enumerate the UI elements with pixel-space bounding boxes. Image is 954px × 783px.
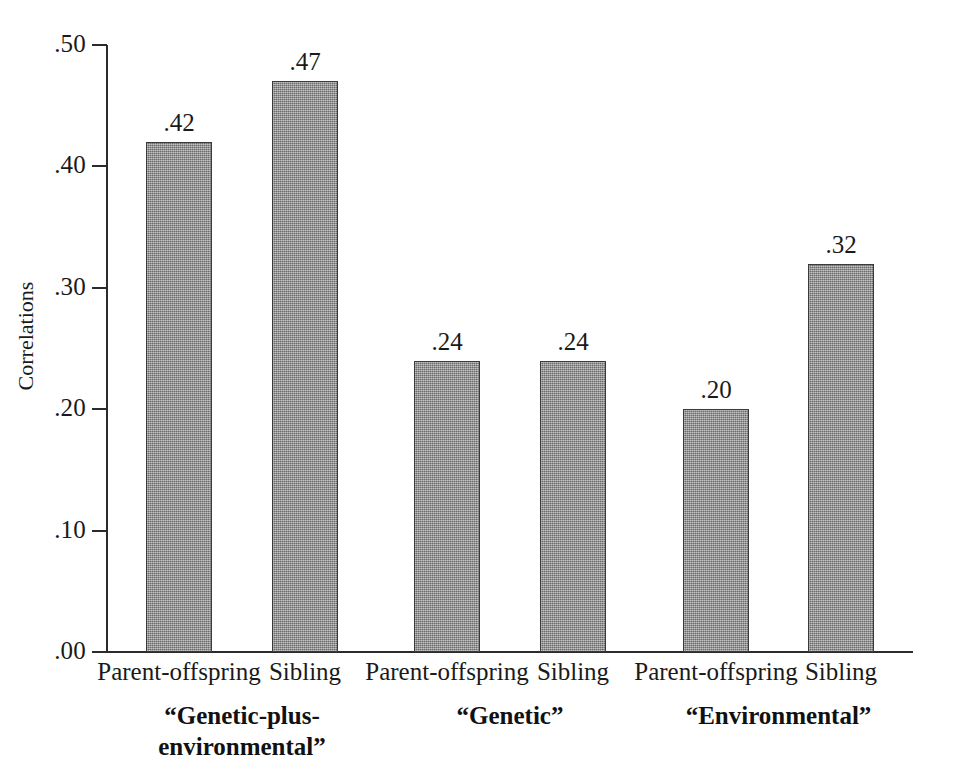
y-axis-tick-mark	[92, 651, 107, 653]
y-axis-tick-mark	[92, 44, 107, 46]
bar-chart-figure: Correlations .50.40.30.20.10.00 .42.47.2…	[0, 0, 954, 783]
bar	[272, 81, 338, 652]
y-axis-tick-label: .30	[40, 274, 86, 299]
bar-value-label: .42	[126, 110, 232, 135]
y-axis-tick-label: .10	[40, 517, 86, 542]
bar-value-label: .24	[394, 329, 500, 354]
bar	[683, 409, 749, 652]
y-axis-tick-label: .20	[40, 395, 86, 420]
bar-value-label: .24	[520, 329, 626, 354]
bar	[146, 142, 212, 652]
y-axis-tick-mark	[92, 530, 107, 532]
group-label-line: “Environmental”	[619, 700, 939, 731]
bar-value-label: .20	[663, 377, 769, 402]
bar	[808, 264, 874, 652]
y-axis-tick-mark	[92, 165, 107, 167]
group-label-line: environmental”	[82, 731, 402, 762]
category-label: Sibling	[721, 657, 954, 687]
plot-area: .42.47.24.24.20.32	[107, 45, 913, 652]
bar	[540, 361, 606, 652]
y-axis-tick-label: .40	[40, 152, 86, 177]
group-label: “Environmental”	[619, 700, 939, 731]
y-axis-title: Correlations	[15, 246, 37, 426]
y-axis-tick-mark	[92, 287, 107, 289]
y-axis-tick-mark	[92, 408, 107, 410]
bar-value-label: .47	[252, 49, 358, 74]
y-axis-tick-label: .50	[40, 31, 86, 56]
bar-value-label: .32	[788, 232, 894, 257]
bar	[414, 361, 480, 652]
